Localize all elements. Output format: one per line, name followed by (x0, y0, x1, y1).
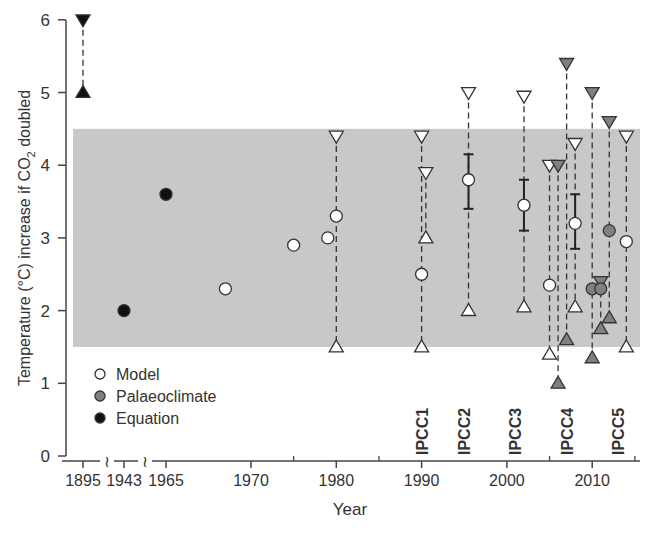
ipcc-report-label: IPCC4 (559, 408, 576, 455)
ipcc-report-label: IPCC1 (414, 408, 431, 455)
upper-bound-triangle-icon (560, 59, 574, 71)
model-point (330, 210, 342, 222)
x-tick-label: 2010 (574, 472, 610, 489)
legend-label: Model (116, 366, 160, 383)
upper-bound-triangle-icon (462, 88, 476, 100)
lower-bound-triangle-icon (76, 86, 90, 98)
palaeoclimate-point (603, 225, 615, 237)
upper-bound-triangle-icon (76, 15, 90, 27)
axis-break-icon: ≀ (104, 453, 110, 470)
palaeoclimate-point (595, 283, 607, 295)
model-point (620, 236, 632, 248)
model-point (463, 174, 475, 186)
y-axis-label: Temperature (°C) increase if CO2 doubled (16, 90, 37, 386)
legend-label: Equation (116, 410, 179, 427)
y-tick-label: 4 (41, 156, 50, 175)
x-tick-label: 1965 (148, 472, 184, 489)
model-point (219, 283, 231, 295)
x-tick-label: 1895 (65, 472, 101, 489)
ipcc-report-label: IPCC2 (456, 408, 473, 455)
x-tick-label: 1943 (106, 472, 142, 489)
y-tick-label: 2 (41, 302, 50, 321)
y-tick-label: 3 (41, 229, 50, 248)
model-point (518, 199, 530, 211)
legend: ModelPalaeoclimateEquation (95, 366, 217, 427)
y-tick-label: 1 (41, 374, 50, 393)
model-point (544, 279, 556, 291)
upper-bound-triangle-icon (517, 91, 531, 103)
x-tick-label: 1990 (404, 472, 440, 489)
equation-point (160, 188, 172, 200)
x-tick-label: 1970 (233, 472, 269, 489)
ipcc-labels: IPCC1IPCC2IPCC3IPCC4IPCC5 (414, 408, 627, 455)
legend-label: Palaeoclimate (116, 388, 217, 405)
ipcc-report-label: IPCC5 (610, 408, 627, 455)
lower-bound-triangle-icon (585, 351, 599, 363)
model-point (322, 232, 334, 244)
upper-bound-triangle-icon (602, 117, 616, 129)
legend-marker-icon (95, 369, 105, 379)
legend-marker-icon (95, 391, 105, 401)
y-tick-label: 5 (41, 84, 50, 103)
y-tick-label: 0 (41, 447, 50, 466)
climate-sensitivity-chart: 0123456≀≀1895194319651970198019902000201… (0, 0, 651, 539)
x-axis-label: Year (333, 500, 368, 519)
model-point (569, 217, 581, 229)
legend-marker-icon (95, 413, 105, 423)
x-tick-label: 2000 (489, 472, 525, 489)
model-point (416, 268, 428, 280)
upper-bound-triangle-icon (585, 88, 599, 100)
y-tick-label: 6 (41, 11, 50, 30)
chart-canvas: 0123456≀≀1895194319651970198019902000201… (0, 0, 651, 539)
axis-break-icon: ≀ (142, 453, 148, 470)
ipcc-report-label: IPCC3 (507, 408, 524, 455)
model-point (288, 239, 300, 251)
lower-bound-triangle-icon (551, 376, 565, 388)
equation-point (118, 305, 130, 317)
x-tick-label: 1980 (319, 472, 355, 489)
lower-bound-triangle-icon (543, 347, 557, 359)
